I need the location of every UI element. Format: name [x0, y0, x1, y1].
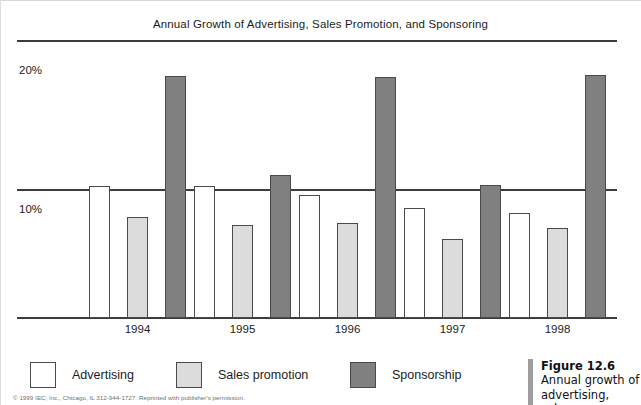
- x-axis-label-1997: 1997: [407, 323, 499, 335]
- legend-item-sales-promotion: Sales promotion: [176, 358, 308, 392]
- caption-body-text: Annual growth of advertising, sales: [541, 373, 641, 405]
- source-copyright-note: © 1999 IEC, Inc., Chicago, IL 312-944-17…: [13, 394, 245, 401]
- figure-caption-panel: Figure 12.6 Annual growth of advertising…: [528, 359, 641, 405]
- bar-advertising-1996: [299, 195, 320, 318]
- y-axis-tick-label-10: 10%: [19, 203, 42, 215]
- bar-advertising-1998: [509, 213, 530, 318]
- legend-item-sponsorship: Sponsorship: [350, 358, 462, 392]
- bar-sponsorship-1996: [375, 77, 396, 318]
- legend-label-advertising: Advertising: [72, 368, 134, 382]
- gridline-20-percent: [17, 40, 617, 42]
- bar-advertising-1997: [404, 208, 425, 318]
- bar-sponsorship-1998: [585, 75, 606, 318]
- x-axis-label-1995: 1995: [197, 323, 289, 335]
- bar-sales-1994: [127, 217, 148, 318]
- bar-sales-1997: [442, 239, 463, 318]
- bar-sales-1996: [337, 223, 358, 318]
- legend-swatch-sales-promotion-icon: [176, 362, 202, 388]
- legend-label-sponsorship: Sponsorship: [392, 368, 462, 382]
- bar-advertising-1995: [194, 186, 215, 318]
- x-axis-label-1998: 1998: [512, 323, 604, 335]
- bar-sales-1995: [232, 225, 253, 318]
- bar-sales-1998: [547, 228, 568, 318]
- bar-sponsorship-1997: [480, 185, 501, 318]
- bar-sponsorship-1994: [165, 76, 186, 318]
- x-axis-label-1996: 1996: [302, 323, 394, 335]
- x-axis-label-1994: 1994: [92, 323, 184, 335]
- legend-swatch-sponsorship-icon: [350, 362, 376, 388]
- caption-figure-number: Figure 12.6: [541, 359, 641, 373]
- bar-advertising-1994: [89, 186, 110, 318]
- legend-item-advertising: Advertising: [30, 358, 134, 392]
- bar-sponsorship-1995: [270, 175, 291, 318]
- caption-accent-rule: [528, 359, 533, 405]
- chart-plot-area: 20% 10% 19941995199619971998: [0, 0, 641, 340]
- y-axis-tick-label-20: 20%: [19, 64, 42, 76]
- legend-label-sales-promotion: Sales promotion: [218, 368, 308, 382]
- legend-swatch-advertising-icon: [30, 362, 56, 388]
- caption-text: Figure 12.6 Annual growth of advertising…: [541, 359, 641, 405]
